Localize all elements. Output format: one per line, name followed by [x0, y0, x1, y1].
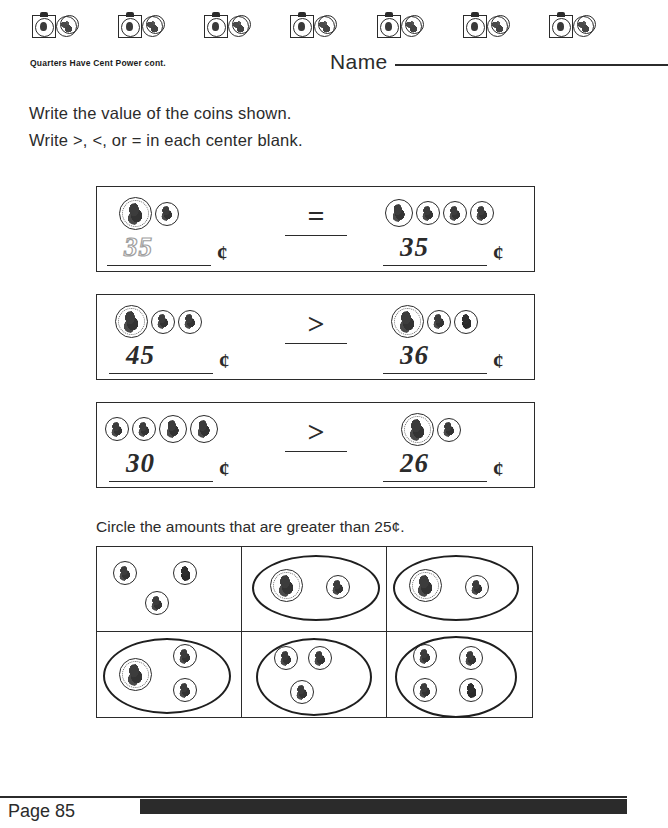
- coin-dime: [173, 644, 197, 668]
- name-blank-line[interactable]: [395, 64, 668, 66]
- answer-value: 35: [400, 232, 429, 263]
- answer-blank[interactable]: 30 ¢: [109, 447, 230, 482]
- coin-penny: [173, 561, 197, 585]
- coin-group: [105, 415, 218, 443]
- coin-nickel: [385, 199, 413, 227]
- answer-value: 36: [400, 340, 429, 371]
- coin-dime: [465, 575, 489, 599]
- cent-symbol: ¢: [493, 241, 504, 266]
- circle-instruction: Circle the amounts that are greater than…: [96, 518, 404, 536]
- coin-nickel: [190, 415, 218, 443]
- coin-penny: [454, 310, 478, 334]
- coin-group: [387, 632, 532, 717]
- coin-group: [115, 305, 202, 338]
- quarter-and-dime-motif-icon: [290, 14, 335, 38]
- quarter-and-dime-motif-icon: [377, 14, 422, 38]
- quarter-and-dime-motif-icon: [32, 14, 77, 38]
- coin-dime: [427, 310, 451, 334]
- cent-symbol: ¢: [493, 349, 504, 374]
- page-number: Page 85: [8, 801, 75, 822]
- answer-value: 26: [400, 448, 429, 479]
- coin-group: [119, 197, 179, 230]
- coin-dime: [459, 646, 483, 670]
- grid-cell[interactable]: [242, 547, 387, 632]
- answer-blank[interactable]: 26 ¢: [383, 447, 504, 482]
- coin-quarter: [409, 569, 442, 602]
- answer-blank[interactable]: 35 ¢: [383, 231, 504, 266]
- answer-blank[interactable]: 35 ¢: [107, 231, 228, 266]
- cent-symbol: ¢: [493, 457, 504, 482]
- coin-group: [387, 547, 532, 631]
- coin-dime: [413, 678, 437, 702]
- quarter-and-dime-motif-icon: [118, 14, 163, 38]
- coin-dime: [155, 202, 179, 226]
- circle-grid: [96, 546, 533, 718]
- comparison-row: 35 ¢ = 35 ¢: [96, 186, 535, 272]
- cent-symbol: ¢: [217, 241, 228, 266]
- coin-group: [97, 632, 241, 717]
- cent-symbol: ¢: [219, 457, 230, 482]
- comparison-left-side: 45 ¢: [97, 295, 287, 379]
- instruction-line-1: Write the value of the coins shown.: [29, 104, 292, 123]
- coin-dime: [105, 417, 129, 441]
- footer-bar: [140, 799, 627, 814]
- footer-divider: [0, 796, 627, 798]
- coin-dime: [178, 310, 202, 334]
- coin-dime: [113, 561, 137, 585]
- quarter-and-dime-motif-icon: [463, 14, 508, 38]
- coin-dime: [151, 310, 175, 334]
- coin-nickel: [159, 415, 187, 443]
- coin-dime: [132, 417, 156, 441]
- name-field[interactable]: Name: [330, 50, 668, 74]
- coin-dime: [173, 678, 197, 702]
- worksheet-title: Quarters Have Cent Power cont.: [30, 58, 166, 68]
- coin-quarter: [115, 305, 148, 338]
- instruction-line-2: Write >, <, or = in each center blank.: [29, 131, 303, 150]
- name-label: Name: [330, 50, 388, 74]
- answer-value: 30: [126, 448, 155, 479]
- answer-value: 35: [124, 232, 153, 263]
- comparison-right-side: 35 ¢: [335, 187, 534, 271]
- coin-group: [97, 547, 241, 631]
- coin-quarter: [119, 197, 152, 230]
- comparison-right-side: 26 ¢: [335, 403, 534, 487]
- coin-penny: [459, 678, 483, 702]
- coin-dime: [413, 644, 437, 668]
- header-coin-band: [32, 6, 594, 46]
- coin-group: [391, 305, 478, 338]
- coin-dime: [326, 575, 350, 599]
- coin-group: [242, 547, 386, 631]
- grid-cell[interactable]: [97, 632, 242, 717]
- answer-value: 45: [126, 340, 155, 371]
- coin-dime: [145, 591, 169, 615]
- quarter-and-dime-motif-icon: [204, 14, 249, 38]
- comparison-row: 30 ¢ > 26 ¢: [96, 402, 535, 488]
- coin-quarter: [391, 305, 424, 338]
- grid-cell[interactable]: [387, 547, 532, 632]
- coin-quarter: [401, 413, 434, 446]
- grid-cell[interactable]: [242, 632, 387, 717]
- coin-dime: [308, 646, 332, 670]
- coin-dime: [290, 680, 314, 704]
- answer-blank[interactable]: 45 ¢: [109, 339, 230, 374]
- coin-group: [401, 413, 461, 446]
- coin-quarter: [270, 569, 303, 602]
- cent-symbol: ¢: [219, 349, 230, 374]
- comparison-row: 45 ¢ > 36 ¢: [96, 294, 535, 380]
- comparison-right-side: 36 ¢: [335, 295, 534, 379]
- quarter-and-dime-motif-icon: [549, 14, 594, 38]
- coin-quarter: [119, 658, 152, 691]
- grid-cell[interactable]: [387, 632, 532, 717]
- coin-dime: [274, 646, 298, 670]
- coin-dime: [416, 201, 440, 225]
- grid-cell[interactable]: [97, 547, 242, 632]
- answer-blank[interactable]: 36 ¢: [383, 339, 504, 374]
- coin-group: [385, 199, 494, 227]
- comparison-left-side: 35 ¢: [97, 187, 287, 271]
- coin-group: [242, 632, 386, 717]
- coin-dime: [470, 201, 494, 225]
- coin-dime: [443, 201, 467, 225]
- coin-penny: [437, 418, 461, 442]
- comparison-left-side: 30 ¢: [97, 403, 287, 487]
